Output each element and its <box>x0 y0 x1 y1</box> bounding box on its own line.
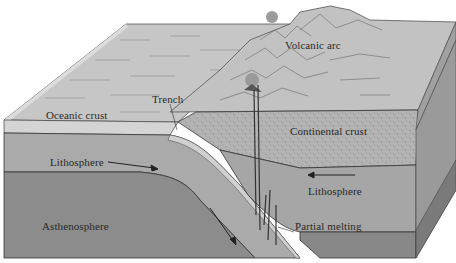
label-lithosphere-oceanic: Lithosphere <box>50 157 104 168</box>
label-volcanic-arc: Volcanic arc <box>285 40 341 51</box>
oceanic-crust-layer <box>4 120 178 135</box>
label-oceanic-crust: Oceanic crust <box>46 110 107 121</box>
label-partial-melting: Partial melting <box>295 221 362 232</box>
label-lithosphere-continental: Lithosphere <box>308 186 362 197</box>
label-continental-crust: Continental crust <box>290 126 367 137</box>
label-asthenosphere: Asthenosphere <box>42 221 109 232</box>
label-trench: Trench <box>152 94 183 105</box>
asthenosphere-right <box>300 232 416 258</box>
subduction-diagram: Volcanic arc Trench Oceanic crust Contin… <box>0 0 456 263</box>
